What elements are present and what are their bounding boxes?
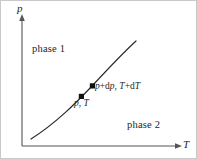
x-axis-arrow-icon: [175, 143, 182, 148]
phase-1-label: phase 1: [32, 44, 65, 55]
y-axis-arrow-icon: [19, 14, 25, 21]
state-point-1-comma: ,: [79, 98, 81, 108]
x-axis-label: T: [183, 139, 189, 150]
state-point-2-label: p+dp, T+dT: [95, 82, 140, 92]
state-point-1-T-symbol: T: [84, 98, 89, 108]
y-axis-label: p: [17, 3, 23, 14]
state-point-1-label: p, T: [74, 99, 89, 109]
state-point-2-comma: ,: [115, 81, 117, 91]
plot-canvas: [1, 1, 197, 159]
phase-diagram-figure: p T phase 1 phase 2 p, T p+dp, T+dT: [0, 0, 197, 159]
phase-2-label: phase 2: [127, 120, 160, 131]
state-point-2-dT-symbol: T: [135, 81, 140, 91]
